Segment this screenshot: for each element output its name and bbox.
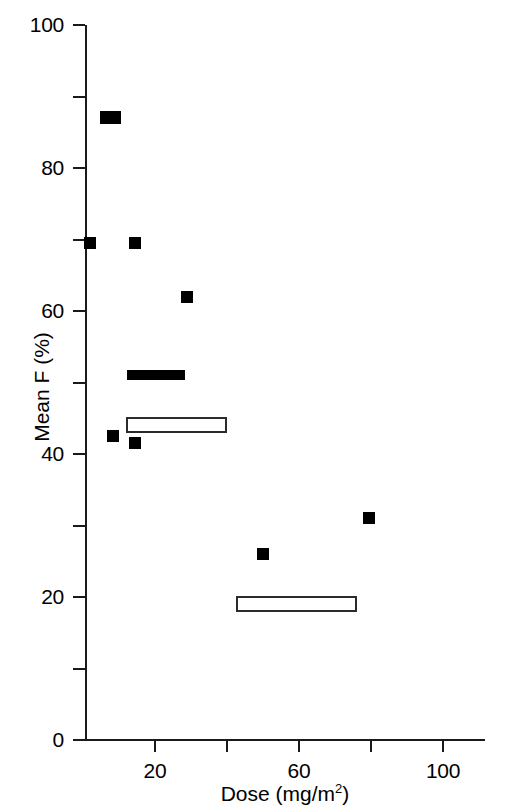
data-point-4 (181, 291, 193, 303)
data-point-8 (363, 512, 375, 524)
scatter-chart-figure: 020406080100 2060100 Mean F (%) Dose (mg… (0, 0, 508, 806)
data-point-3 (129, 237, 141, 249)
data-point-6 (129, 437, 141, 449)
data-marker-layer (0, 0, 508, 806)
data-point-2 (84, 237, 96, 249)
data-open-range-box-upper (126, 417, 227, 433)
data-filled-range-bar (127, 370, 185, 380)
data-point-5 (107, 430, 119, 442)
data-open-range-box-lower (236, 596, 357, 612)
data-point-1 (100, 111, 121, 124)
data-point-7 (257, 548, 269, 560)
